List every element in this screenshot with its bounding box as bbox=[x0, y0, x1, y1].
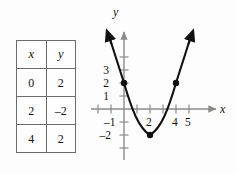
x-tick-label-5: 5 bbox=[185, 116, 191, 128]
point-4-2 bbox=[173, 80, 179, 86]
table-cell-x: 4 bbox=[17, 125, 47, 153]
table-header-x: x bbox=[17, 41, 47, 69]
table-cell-y: –2 bbox=[46, 97, 76, 125]
x-axis bbox=[91, 105, 216, 114]
table-row: 4 2 bbox=[17, 125, 76, 153]
y-tick-label-1: 1 bbox=[103, 90, 109, 102]
point-0-2 bbox=[121, 80, 127, 86]
table-header-y: y bbox=[46, 41, 76, 69]
y-tick-label-neg2: –2 bbox=[99, 129, 112, 141]
y-axis-label: y bbox=[112, 5, 119, 19]
table-row: 2 –2 bbox=[17, 97, 76, 125]
x-tick-label-neg1: –1 bbox=[103, 116, 116, 128]
y-tick-label-3: 3 bbox=[103, 64, 109, 76]
table-header-row: x y bbox=[17, 41, 76, 69]
table-cell-y: 2 bbox=[46, 125, 76, 153]
table-cell-y: 2 bbox=[46, 69, 76, 97]
y-tick-label-2: 2 bbox=[103, 77, 109, 89]
table-of-values: x y 0 2 2 –2 4 2 bbox=[16, 40, 76, 153]
table-row: 0 2 bbox=[17, 69, 76, 97]
figure-container: x y 0 2 2 –2 4 2 bbox=[0, 0, 236, 174]
x-tick-label-2: 2 bbox=[146, 116, 152, 128]
table-cell-x: 2 bbox=[17, 97, 47, 125]
x-axis-label: x bbox=[219, 102, 226, 116]
x-tick-label-4: 4 bbox=[172, 116, 178, 128]
point-2-neg2 bbox=[147, 132, 153, 138]
table-cell-x: 0 bbox=[17, 69, 47, 97]
coordinate-plane-graph: y x –1 2 4 5 3 2 1 –2 bbox=[86, 0, 236, 174]
